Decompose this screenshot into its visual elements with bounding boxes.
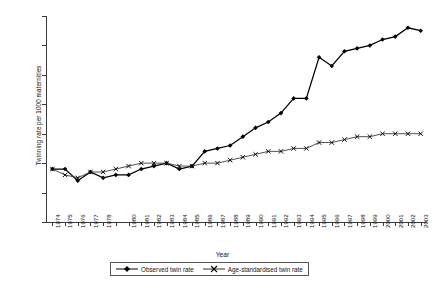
- chart-figure: Twinning rate per 1000 maternities 89101…: [0, 0, 445, 293]
- data-point: [368, 43, 373, 48]
- x-tick: [357, 222, 358, 226]
- legend-item-observed: Observed twin rate: [116, 265, 194, 273]
- series-age-standardised: [50, 132, 423, 181]
- x-tick: [103, 222, 104, 226]
- legend-marker-filled-diamond: [116, 265, 138, 273]
- y-tick: [42, 222, 46, 223]
- x-tick: [230, 222, 231, 226]
- legend-label-observed: Observed twin rate: [141, 266, 194, 273]
- legend-label-age-standardised: Age-standardised twin rate: [228, 266, 303, 273]
- legend-item-age-standardised: Age-standardised twin rate: [203, 265, 303, 273]
- data-point: [114, 173, 119, 178]
- data-point: [101, 176, 106, 181]
- series-lines: [46, 16, 427, 222]
- data-point: [139, 167, 144, 172]
- data-point: [418, 28, 423, 33]
- data-point: [126, 173, 131, 178]
- series-observed: [50, 25, 423, 183]
- data-point: [215, 146, 220, 151]
- data-point: [355, 46, 360, 51]
- plot-area: 89101112131415 1974197519761977197819801…: [46, 16, 427, 222]
- chart-legend: Observed twin rate Age-standardised twin…: [110, 262, 309, 276]
- x-tick: [116, 222, 117, 226]
- data-point: [304, 96, 309, 101]
- x-axis-title: Year: [0, 251, 445, 258]
- y-axis-title: Twinning rate per 1000 maternities: [35, 26, 42, 206]
- legend-marker-cross: [203, 265, 225, 273]
- data-point: [380, 37, 385, 42]
